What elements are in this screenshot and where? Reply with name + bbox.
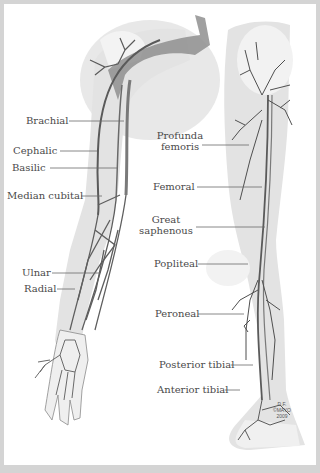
label-anterior-tibial: Anterior tibial <box>157 384 229 395</box>
label-peroneal: Peroneal <box>155 308 200 319</box>
label-profunda-femoris-line2: femoris <box>154 141 206 152</box>
label-posterior-tibial: Posterior tibial <box>159 359 234 370</box>
label-great-saphenous: Great saphenous <box>138 214 194 236</box>
label-great-saphenous-line1: Great <box>138 214 194 225</box>
label-ulnar: Ulnar <box>22 267 51 278</box>
knee-bone <box>206 250 250 286</box>
label-basilic: Basilic <box>12 162 46 173</box>
label-popliteal: Popliteal <box>154 258 198 269</box>
label-femoral: Femoral <box>153 181 195 192</box>
label-cephalic: Cephalic <box>13 145 57 156</box>
diagram-frame: Brachial Cephalic Basilic Median cubital… <box>4 4 316 465</box>
label-radial: Radial <box>24 283 56 294</box>
label-profunda-femoris: Profunda femoris <box>154 130 206 152</box>
label-profunda-femoris-line1: Profunda <box>154 130 206 141</box>
label-median-cubital: Median cubital <box>7 190 83 201</box>
illustration-credit: D.F. ©MAYO 2009 <box>270 401 294 419</box>
hand-outline <box>45 330 88 425</box>
label-brachial: Brachial <box>26 115 69 126</box>
credit-line3: 2009 <box>270 413 294 419</box>
label-great-saphenous-line2: saphenous <box>138 225 194 236</box>
